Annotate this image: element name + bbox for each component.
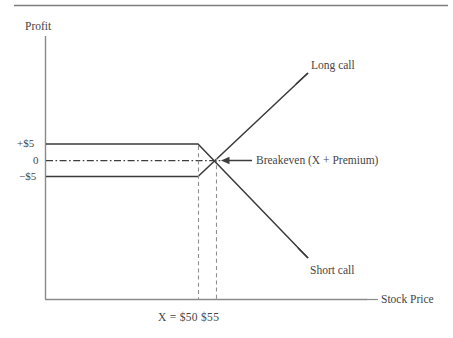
y-tick-plus-5: +$5 xyxy=(17,138,34,149)
y-axis-title: Profit xyxy=(25,21,51,33)
y-tick-zero: 0 xyxy=(33,155,39,166)
y-tick-minus-5: −$5 xyxy=(19,171,36,182)
x-axis-strike-note: X = $50 $55 xyxy=(158,312,219,324)
long-call-label: Long call xyxy=(311,60,355,72)
payoff-chart-canvas xyxy=(0,0,453,338)
long-call-leader-line xyxy=(296,73,308,84)
x-axis-title: Stock Price xyxy=(381,294,434,306)
options-payoff-figure: Profit +$5 0 −$5 Long call Short call Br… xyxy=(0,0,453,338)
short-call-label: Short call xyxy=(310,265,354,277)
breakeven-annotation: Breakeven (X + Premium) xyxy=(256,155,378,167)
breakeven-arrow-icon xyxy=(221,157,252,164)
short-call-leader-line xyxy=(298,248,308,258)
